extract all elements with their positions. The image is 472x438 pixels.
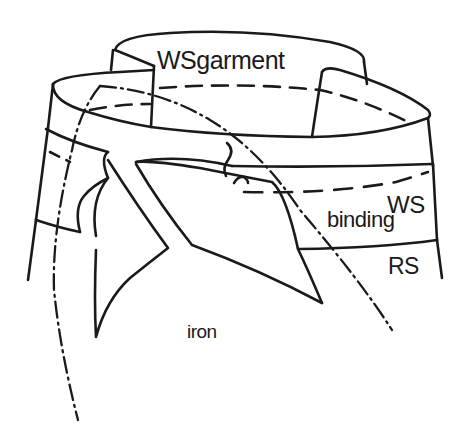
binding-top-edge-right [232, 164, 432, 167]
label-binding: binding [327, 209, 394, 231]
garment-left-front-column [151, 66, 154, 127]
garment-right-flap-top [322, 68, 430, 118]
binding-left-fold-inner [95, 178, 109, 236]
label-ws-garment-word: garment [196, 46, 284, 74]
garment-right-lower-side [437, 240, 442, 278]
iron-back-point [95, 160, 168, 337]
label-rs: RS [388, 255, 419, 278]
binding-left-side [36, 128, 48, 220]
label-ws-garment: WSgarment [157, 48, 285, 73]
stitch-line-left [90, 104, 150, 110]
band-right-side [428, 118, 433, 166]
binding-right-side [433, 164, 437, 240]
stitch-line-upper [160, 85, 412, 124]
stitch-line-binding-left [50, 152, 70, 162]
garment-left-back-side [111, 50, 113, 70]
binding-left-fold [78, 152, 108, 232]
iron-body-outer [136, 162, 322, 303]
garment-left-inner-edge [115, 50, 154, 66]
label-iron: iron [187, 322, 217, 341]
iron-tip-curl [234, 177, 248, 183]
band-left-roll [53, 84, 428, 137]
binding-bottom-edge-right [298, 240, 437, 249]
diagram-canvas: WSgarment WS binding RS iron [0, 0, 472, 438]
garment-right-back-side [364, 62, 367, 84]
band-top-left [53, 70, 154, 84]
garment-right-column [312, 72, 322, 137]
garment-left-lower-side [28, 220, 36, 280]
iron-hook [224, 143, 231, 176]
band-left-side [48, 84, 53, 128]
binding-top-edge [46, 129, 108, 152]
label-ws-garment-ws: WS [157, 46, 196, 74]
